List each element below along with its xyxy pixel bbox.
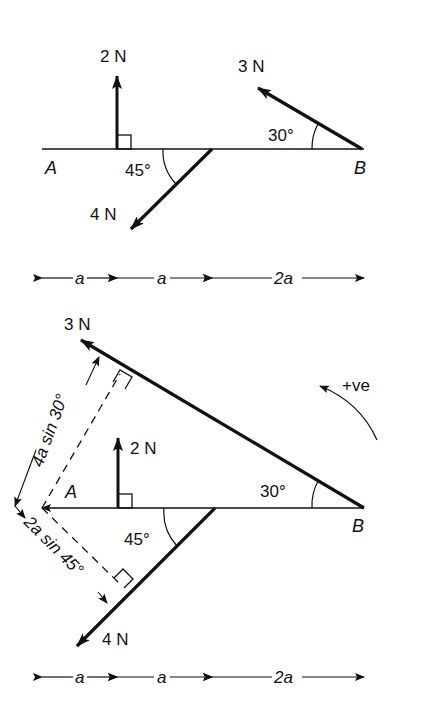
svg-text:2a: 2a [273, 668, 293, 687]
force-2n-label: 2 N [130, 439, 156, 458]
force-2n-label: 2 N [100, 47, 126, 66]
angle-45-label: 45° [125, 161, 151, 180]
force-4n-label: 4 N [90, 205, 116, 224]
force-3n-label: 3 N [64, 315, 90, 334]
angle-30-label: 30° [260, 482, 286, 501]
moment-arm-lower-label: 2a sin 45° [19, 512, 87, 580]
top-diagram: 2 N 30° 3 N 45° 4 N A B a a 2a [42, 47, 366, 288]
right-angle-mark [117, 135, 131, 149]
point-a-label: A [44, 158, 57, 178]
svg-text:a: a [157, 269, 166, 288]
angle-arc-45 [164, 508, 177, 546]
svg-text:a: a [157, 668, 166, 687]
right-angle-mark-4n [114, 569, 133, 588]
angle-arc-30 [312, 481, 318, 508]
angle-arc-45 [163, 149, 176, 184]
force-3n-label: 3 N [238, 57, 264, 76]
dimension-line: a a 2a [42, 269, 364, 288]
svg-text:2a: 2a [273, 269, 293, 288]
right-angle-mark-3n [113, 370, 132, 389]
moment-arm-lower-arrow [15, 506, 25, 518]
right-angle-mark [118, 494, 132, 508]
moment-arm-lower-arrow-2 [98, 592, 107, 603]
svg-text:a: a [75, 668, 84, 687]
angle-30-label: 30° [268, 126, 294, 145]
point-a-label: A [64, 482, 77, 502]
dimension-line: a a 2a [42, 668, 364, 687]
point-b-label: B [354, 158, 366, 178]
angle-45-label: 45° [124, 530, 150, 549]
point-b-label: B [352, 516, 364, 536]
force-4n-label: 4 N [102, 630, 128, 649]
svg-text:a: a [75, 269, 84, 288]
moment-arm-upper-label: 4a sin 30° [28, 391, 72, 469]
force-3n-arrow [81, 340, 364, 508]
moment-arm-upper-arrow-2 [86, 357, 99, 385]
force-diagram: 2 N 30° 3 N 45° 4 N A B a a 2a [0, 0, 424, 716]
sign-convention-label: +ve [342, 376, 370, 395]
angle-arc-30 [312, 124, 318, 149]
bottom-diagram: 30° 3 N 2 N 45° 4 N A B 4a sin 30° 2a si… [15, 315, 377, 687]
force-4n-arrow [77, 508, 215, 646]
